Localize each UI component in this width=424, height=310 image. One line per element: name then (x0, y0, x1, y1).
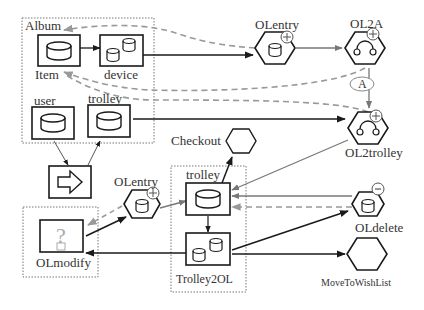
node-ol2a-label: OL2A (350, 17, 383, 30)
edge-dashed-olentry-album (64, 26, 255, 49)
node-user-label: user (34, 94, 56, 107)
node-movetowishlist-hex[interactable] (347, 238, 387, 270)
question-icon-base (57, 243, 65, 250)
node-device-label: device (104, 68, 138, 81)
node-checkout-label: Checkout (171, 134, 221, 147)
minus-badge-icon (372, 183, 384, 195)
node-ol2trolley-label: OL2trolley (345, 146, 403, 159)
node-item-label: Item (35, 68, 59, 81)
node-trolley-top-label: trolley (88, 92, 122, 105)
node-olentry-bottom-label: OLentry (114, 175, 158, 188)
annotation-a-label: A (358, 78, 367, 90)
edge-user-transition (54, 141, 68, 165)
node-olmodify-label: OLmodify (36, 256, 91, 269)
node-movetowishlist-label: MoveToWishList (321, 278, 391, 288)
edge-olentry-trolley (160, 201, 186, 208)
node-oldelete-label: OLdelete (355, 221, 403, 234)
node-checkout-hex[interactable] (226, 129, 256, 153)
plus-badge-icon (281, 31, 293, 43)
group-album-label: Album (25, 19, 61, 32)
node-trolley-bottom-label: trolley (186, 168, 220, 181)
node-ol2a-hex[interactable] (345, 32, 385, 64)
node-olentry-top-label: OLentry (255, 18, 299, 31)
node-device-box[interactable] (100, 35, 143, 66)
edge-trolley-checkout (222, 157, 232, 183)
edge-transition-trolley (88, 141, 100, 165)
node-trolley2ol-box[interactable] (186, 233, 230, 265)
edge-trolley2ol-oldelete (232, 211, 348, 250)
node-user-box[interactable] (32, 107, 74, 139)
node-trolley-bottom-box[interactable] (186, 183, 230, 215)
edge-olmodify-olentry (86, 217, 126, 236)
node-trolley2ol-label: Trolley2OL (176, 273, 233, 285)
plus-badge-icon (370, 110, 382, 122)
node-trolley-top-box[interactable] (88, 105, 130, 137)
